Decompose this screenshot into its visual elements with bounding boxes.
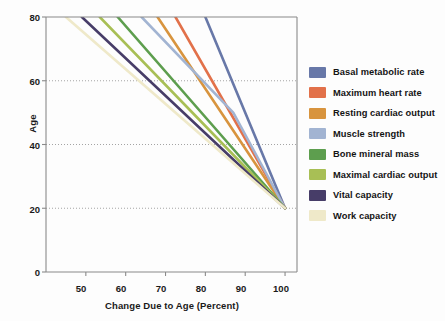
legend-color-swatch xyxy=(309,169,326,180)
legend-color-swatch xyxy=(309,149,326,160)
legend-color-swatch xyxy=(309,67,326,78)
x-tick-label-100: 100 xyxy=(268,283,294,294)
chart-legend: Basal metabolic rateMaximum heart rateRe… xyxy=(309,62,443,226)
legend-color-swatch xyxy=(309,128,326,139)
legend-color-swatch xyxy=(309,108,326,119)
legend-item-label: Work capacity xyxy=(333,211,397,221)
legend-item-label: Resting cardiac output xyxy=(333,108,435,118)
x-tick-label-50: 50 xyxy=(68,283,94,294)
legend-item[interactable]: Muscle strength xyxy=(309,124,443,145)
legend-item[interactable]: Vital capacity xyxy=(309,185,443,206)
legend-item-label: Basal metabolic rate xyxy=(333,67,424,77)
y-tick-label-20: 20 xyxy=(14,204,40,215)
legend-color-swatch xyxy=(309,210,326,221)
x-tick-label-90: 90 xyxy=(228,283,254,294)
legend-item-label: Maximal cardiac output xyxy=(333,170,437,180)
legend-item[interactable]: Basal metabolic rate xyxy=(309,62,443,83)
legend-item-label: Maximum heart rate xyxy=(333,88,422,98)
legend-item[interactable]: Bone mineral mass xyxy=(309,144,443,165)
legend-item-label: Muscle strength xyxy=(333,129,405,139)
legend-item-label: Bone mineral mass xyxy=(333,149,419,159)
x-tick-label-60: 60 xyxy=(108,283,134,294)
age-capacity-line-chart: 80 60 40 20 0 50 60 70 80 90 100 Age Cha… xyxy=(0,0,445,321)
y-tick-label-80: 80 xyxy=(14,12,40,23)
y-tick-label-0: 0 xyxy=(14,267,40,278)
series-lines xyxy=(66,17,285,208)
legend-color-swatch xyxy=(309,87,326,98)
chart-page: 80 60 40 20 0 50 60 70 80 90 100 Age Cha… xyxy=(0,0,445,321)
legend-item[interactable]: Maximal cardiac output xyxy=(309,165,443,186)
legend-color-swatch xyxy=(309,190,326,201)
legend-item[interactable]: Resting cardiac output xyxy=(309,103,443,124)
y-axis-title: Age xyxy=(27,94,38,154)
legend-item[interactable]: Work capacity xyxy=(309,206,443,227)
x-axis-title: Change Due to Age (Percent) xyxy=(46,300,298,311)
x-tick-label-70: 70 xyxy=(148,283,174,294)
legend-item-label: Vital capacity xyxy=(333,190,393,200)
y-tick-label-60: 60 xyxy=(14,76,40,87)
x-tick-label-80: 80 xyxy=(188,283,214,294)
legend-item[interactable]: Maximum heart rate xyxy=(309,83,443,104)
